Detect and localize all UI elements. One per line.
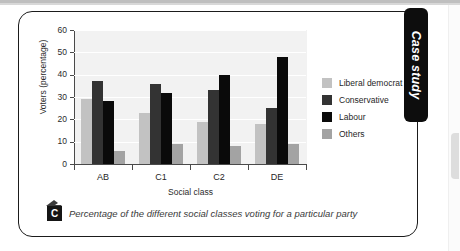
x-category-label: AB — [74, 172, 132, 183]
y-tick-mark — [70, 119, 74, 120]
legend-swatch — [322, 78, 332, 88]
bar — [161, 93, 172, 164]
page-top-bar-highlight — [0, 3, 460, 5]
y-tick-mark — [70, 75, 74, 76]
x-axis-tick — [132, 164, 133, 170]
y-tick-label: 20 — [43, 115, 67, 124]
x-category-label: DE — [248, 172, 306, 183]
bar — [139, 113, 150, 164]
legend-swatch — [322, 129, 332, 139]
page-right-edge — [448, 5, 460, 251]
x-axis-tick — [74, 164, 75, 170]
x-axis-tick — [190, 164, 191, 170]
case-study-tab-label: Case study — [404, 8, 428, 122]
y-tick-label: 50 — [43, 48, 67, 57]
x-axis-tick — [306, 164, 307, 170]
y-tick-label: 40 — [43, 70, 67, 79]
bar — [197, 122, 208, 164]
caption-roof-inner-icon — [55, 201, 67, 205]
y-tick-mark — [70, 30, 74, 31]
x-axis-tick — [248, 164, 249, 170]
bar — [103, 101, 114, 164]
gridline — [74, 30, 306, 31]
y-tick-label: 30 — [43, 93, 67, 102]
y-tick-mark — [70, 142, 74, 143]
bar — [92, 81, 103, 164]
case-study-card: Voters (percentage) 0102030405060 ABC1C2… — [18, 11, 418, 237]
legend-label: Conservative — [339, 92, 389, 108]
legend-label: Liberal democrat — [339, 75, 402, 91]
figure-caption: C Percentage of the different social cla… — [47, 202, 397, 226]
gridline — [74, 75, 306, 76]
page-side-tab-marker — [451, 133, 459, 179]
case-study-tab[interactable]: Case study — [404, 8, 428, 122]
legend-swatch — [322, 95, 332, 105]
gridline — [74, 52, 306, 53]
caption-text: Percentage of the different social class… — [69, 204, 357, 223]
bar — [150, 84, 161, 164]
x-category-label: C2 — [190, 172, 248, 183]
y-tick-label: 60 — [43, 26, 67, 35]
legend-label: Labour — [339, 109, 365, 125]
gridline — [74, 97, 306, 98]
bar — [255, 124, 266, 164]
y-tick-mark — [70, 97, 74, 98]
x-axis-title: Social class — [74, 187, 307, 197]
caption-badge: C — [47, 206, 62, 221]
bar — [114, 151, 125, 164]
bar — [288, 144, 299, 164]
bar — [230, 146, 241, 164]
bar — [266, 108, 277, 164]
bar — [81, 99, 92, 164]
x-category-label: C1 — [132, 172, 190, 183]
legend-swatch — [322, 112, 332, 122]
bar — [277, 57, 288, 164]
bar — [172, 144, 183, 164]
y-tick-label: 0 — [43, 160, 67, 169]
bar — [208, 90, 219, 164]
legend-label: Others — [339, 126, 365, 142]
bar — [219, 75, 230, 164]
y-tick-label: 10 — [43, 137, 67, 146]
page-top-bar — [0, 0, 460, 5]
y-tick-mark — [70, 52, 74, 53]
